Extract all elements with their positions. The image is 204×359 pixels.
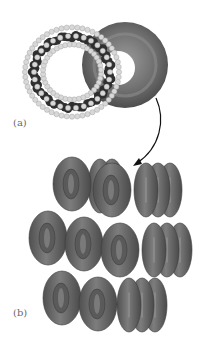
figure-canvas <box>0 0 204 359</box>
stacked-tori <box>29 157 192 332</box>
molecular-ring <box>22 25 121 120</box>
panel-b-label: (b) <box>13 307 27 318</box>
panel-a-label: (a) <box>13 117 27 128</box>
curved-arrow-icon <box>133 98 161 166</box>
